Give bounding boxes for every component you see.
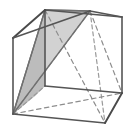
cube-diagram-canvas [0,0,134,135]
edge-top-back-right [45,86,122,93]
edge-bottom-front [105,93,122,123]
cube-wireframe-svg [0,0,134,135]
edge-vertical-back-left [13,114,105,123]
hidden-edge-back-right-vertical [90,11,105,123]
diagonal-back-top-right-to-front-bottom-right [90,11,122,93]
